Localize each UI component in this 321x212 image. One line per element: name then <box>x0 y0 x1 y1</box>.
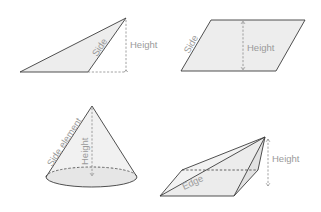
triangle-figure: Side Height <box>20 18 158 72</box>
triangle-height-label: Height <box>130 39 158 50</box>
parallelogram-figure: Height Side <box>181 20 305 71</box>
cone-height-label: Height <box>79 137 90 165</box>
pyramid-height-label: Height <box>272 153 300 164</box>
geometry-diagram: Side Height Height Side Side element Hei… <box>0 0 321 212</box>
parallelogram-height-label: Height <box>247 42 275 53</box>
triangle-shape <box>20 18 126 72</box>
pyramid-height-arrow-bottom <box>266 183 270 186</box>
pyramid-figure: Height Edge <box>160 137 300 196</box>
cone-figure: Side element Height <box>44 106 137 187</box>
